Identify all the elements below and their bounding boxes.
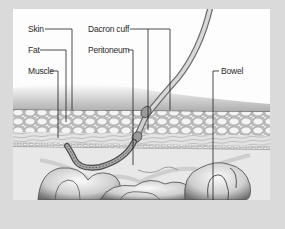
- anatomy-illustration: [0, 0, 285, 229]
- label-fat: Fat: [28, 45, 40, 55]
- label-skin: Skin: [28, 24, 44, 34]
- label-peritoneum: Peritoneum: [88, 45, 129, 55]
- label-bowel: Bowel: [221, 66, 243, 76]
- label-dacron-cuff: Dacron cuff: [88, 24, 129, 34]
- label-muscle: Muscle: [28, 66, 54, 76]
